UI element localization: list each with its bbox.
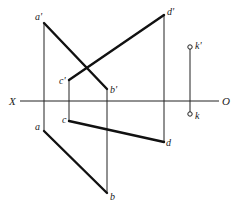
projection-diagram: X O a' b' c' d' k' a b c d k bbox=[0, 0, 241, 211]
label-b-front: b' bbox=[110, 84, 118, 95]
label-d-top: d bbox=[166, 137, 172, 148]
label-b-top: b bbox=[110, 191, 115, 202]
point-k-front bbox=[188, 45, 192, 49]
line-ab-front bbox=[44, 23, 107, 89]
line-ab-top bbox=[44, 131, 107, 193]
line-cd-top bbox=[69, 121, 164, 142]
label-c-top: c bbox=[62, 114, 67, 125]
label-k-top: k bbox=[195, 110, 200, 121]
label-c-front: c' bbox=[59, 75, 66, 86]
line-cd-front bbox=[69, 15, 164, 80]
axis-label-x: X bbox=[8, 95, 17, 107]
point-k-top bbox=[188, 112, 192, 116]
label-d-front: d' bbox=[167, 6, 175, 17]
label-a-top: a bbox=[35, 121, 40, 132]
label-k-front: k' bbox=[195, 40, 202, 51]
axis-label-o: O bbox=[222, 95, 230, 107]
label-a-front: a' bbox=[35, 11, 43, 22]
